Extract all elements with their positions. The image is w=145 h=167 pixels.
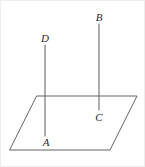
plane-parallelogram <box>10 96 137 150</box>
point-label-c: C <box>95 111 103 123</box>
geometry-diagram-svg: D B A C <box>0 0 145 167</box>
figure-frame-border <box>1 1 145 167</box>
point-label-b: B <box>96 11 103 23</box>
geometry-figure-container: D B A C <box>0 0 145 167</box>
point-label-a: A <box>42 136 50 148</box>
point-label-d: D <box>40 32 49 44</box>
